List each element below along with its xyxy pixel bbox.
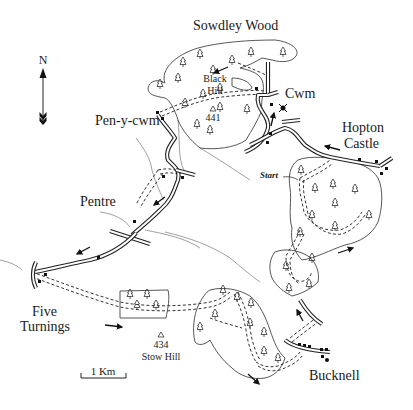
stow-hill-summit-icon	[158, 332, 164, 337]
scale-bar: 1 Km	[81, 365, 126, 378]
label-pen-y-cwm: Pen-y-cwm	[95, 113, 160, 128]
label-turnings: Turnings	[20, 319, 70, 334]
label-cwm: Cwm	[285, 86, 315, 101]
label-castle: Castle	[344, 136, 379, 151]
label-stow-hill-height: 434	[154, 339, 169, 350]
label-five: Five	[32, 304, 57, 319]
label-hopton: Hopton	[342, 120, 384, 135]
label-start: Start	[260, 170, 279, 180]
streams	[0, 120, 260, 282]
walking-route-map: N	[0, 0, 413, 410]
label-sowdley-wood: Sowdley Wood	[193, 18, 278, 33]
start-pointer	[283, 177, 298, 180]
buildings	[38, 87, 388, 362]
castle-icon	[279, 104, 287, 112]
scale-label: 1 Km	[91, 365, 116, 377]
label-black-hill-height: 441	[206, 112, 221, 123]
label-black-hill-2: Hill	[207, 85, 223, 96]
label-stow-hill: Stow Hill	[142, 351, 181, 362]
north-arrow-icon: N	[39, 53, 48, 125]
label-bucknell: Bucknell	[309, 368, 360, 383]
stow-hill-wood-area	[120, 290, 169, 318]
north-label: N	[39, 53, 48, 67]
label-black-hill-1: Black	[203, 73, 226, 84]
black-hill-summit-icon	[210, 106, 216, 111]
label-pentre: Pentre	[80, 194, 116, 209]
bucknell-wood-area	[194, 288, 285, 378]
